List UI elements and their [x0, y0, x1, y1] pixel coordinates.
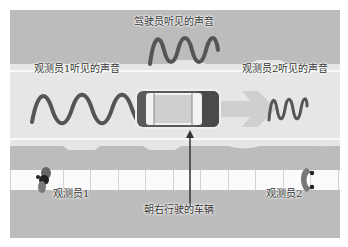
observer1-label: 观测员1	[53, 185, 89, 200]
vehicle-pointer-arrow	[185, 130, 195, 208]
observer2-sound-wave	[266, 94, 310, 124]
observer2-label: 观测员2	[266, 185, 302, 200]
doppler-diagram: 驾驶员听见的声音 观测员1听见的声音 观测员2听见的声音 观测员1 观测员2 朝…	[10, 10, 340, 238]
vehicle-label: 朝右行驶的车辆	[144, 201, 214, 216]
observer1-sound-wave	[28, 90, 140, 128]
lane-line-bottom	[10, 138, 340, 140]
observer1-sound-label: 观测员1听见的声音	[34, 60, 120, 75]
driver-sound-wave	[146, 30, 222, 70]
car-icon	[134, 87, 224, 131]
driver-sound-label: 驾驶员听见的声音	[134, 13, 214, 28]
observer2-sound-label: 观测员2听见的声音	[242, 60, 328, 75]
